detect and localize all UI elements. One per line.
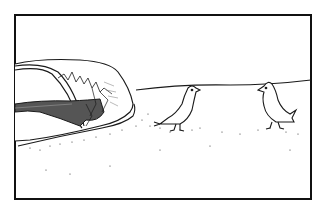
comic-panel	[0, 0, 322, 208]
cartoon-illustration	[0, 0, 322, 208]
